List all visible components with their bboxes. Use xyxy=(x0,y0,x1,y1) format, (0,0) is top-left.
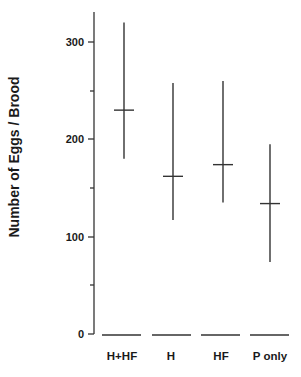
category-label-hf: HF xyxy=(213,350,228,362)
tick-label-100: 100 xyxy=(66,231,84,243)
category-label-p-only: P only xyxy=(253,350,288,362)
range-bar-h xyxy=(163,83,183,220)
y-axis-tick-labels: 0 100 200 300 xyxy=(66,36,84,340)
range-bar-h-hf xyxy=(114,23,134,159)
tick-label-0: 0 xyxy=(78,328,84,340)
range-bar-hf xyxy=(213,81,233,203)
category-label-h: H xyxy=(167,350,175,362)
y-axis-ticks xyxy=(88,42,94,334)
range-bars xyxy=(114,23,280,262)
range-chart: Number of Eggs / Brood 0 100 200 300 H+H… xyxy=(0,0,301,377)
range-bar-p-only xyxy=(260,144,280,262)
category-label-h-hf: H+HF xyxy=(107,350,137,362)
tick-label-200: 200 xyxy=(66,133,84,145)
y-axis-title: Number of Eggs / Brood xyxy=(6,77,22,238)
x-axis-category-labels: H+HF H HF P only xyxy=(107,350,288,362)
tick-label-300: 300 xyxy=(66,36,84,48)
